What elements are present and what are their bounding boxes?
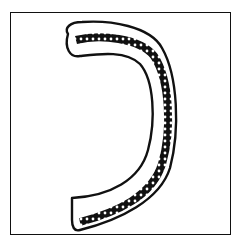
glyph-outline <box>67 22 176 231</box>
ornamental-glyph-icon <box>0 0 241 246</box>
